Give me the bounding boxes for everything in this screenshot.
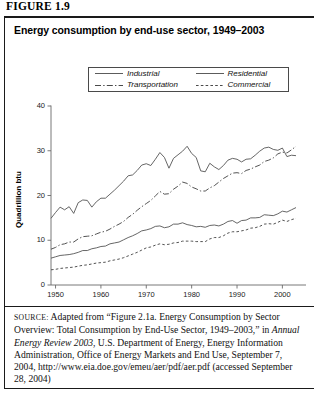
legend-line-icon-industrial (95, 70, 123, 77)
x-tick-label: 1990 (222, 290, 252, 299)
legend-item-commercial: Commercial (189, 81, 290, 89)
series-line-commercial (51, 218, 296, 269)
legend-item-industrial: Industrial (88, 70, 189, 78)
legend-label-commercial: Commercial (228, 81, 271, 89)
x-tick-label: 1950 (41, 290, 71, 299)
series-line-residential (51, 208, 296, 259)
source-rule (4, 306, 314, 307)
legend-line-icon-transportation (95, 82, 123, 89)
y-tick-label: 40 (15, 101, 45, 110)
source-note: SOURCE: Adapted from “Figure 2.1a. Energ… (14, 311, 306, 386)
y-tick-label: 20 (15, 191, 45, 200)
legend-line-icon-commercial (196, 82, 224, 89)
legend-label-industrial: Industrial (127, 70, 159, 78)
bottom-rule (4, 388, 314, 389)
legend-label-residential: Residential (228, 70, 268, 78)
x-tick-label: 1970 (131, 290, 161, 299)
legend-item-transportation: Transportation (88, 81, 189, 89)
legend-label-transportation: Transportation (127, 81, 178, 89)
source-prefix: SOURCE: (14, 313, 49, 322)
y-tick-label: 30 (15, 146, 45, 155)
x-tick-label: 2000 (267, 290, 297, 299)
legend-line-icon-residential (196, 70, 224, 77)
y-tick-label: 0 (15, 280, 45, 289)
series-line-transportation (51, 146, 296, 249)
legend: IndustrialResidentialTransportationComme… (88, 67, 289, 92)
y-tick-label: 10 (15, 235, 45, 244)
x-tick-label: 1960 (86, 290, 116, 299)
x-tick-label: 1980 (177, 290, 207, 299)
line-chart (0, 0, 318, 300)
chart-plot-area (0, 0, 318, 300)
source-text-1: Adapted from “Figure 2.1a. Energy Consum… (14, 311, 280, 335)
legend-item-residential: Residential (189, 70, 290, 78)
series-line-industrial (51, 146, 296, 218)
figure-page: FIGURE 1.9 Energy consumption by end-use… (0, 0, 318, 397)
